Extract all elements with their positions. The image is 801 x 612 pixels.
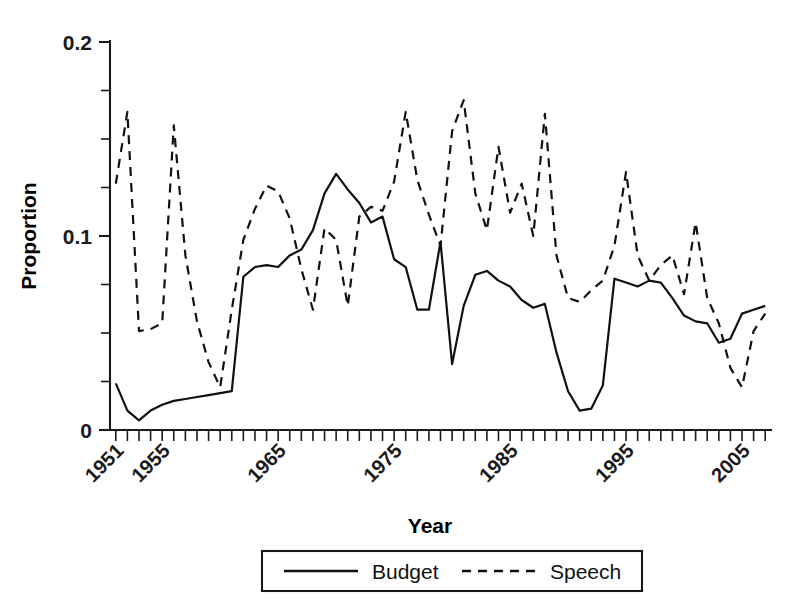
- x-tick-label: 2005: [707, 439, 754, 486]
- series-lines: [116, 100, 765, 420]
- y-axis-title: Proportion: [17, 182, 40, 289]
- y-tick-label: 0: [80, 419, 92, 442]
- y-axis: 00.10.2: [63, 31, 110, 442]
- y-tick-label: 0.1: [63, 225, 93, 248]
- x-tick-label: 1975: [359, 439, 406, 486]
- x-tick-label: 1955: [127, 439, 174, 486]
- x-axis-title: Year: [408, 514, 452, 537]
- legend-label-budget: Budget: [372, 560, 439, 583]
- x-tick-label: 1995: [591, 439, 638, 486]
- line-chart: 00.10.2 1951195519651975198519952005 Pro…: [0, 0, 801, 612]
- legend-label-speech: Speech: [550, 560, 621, 583]
- chart-figure: 00.10.2 1951195519651975198519952005 Pro…: [0, 0, 801, 612]
- y-tick-label: 0.2: [63, 31, 92, 54]
- x-tick-label: 1985: [475, 439, 522, 486]
- series-line-budget: [116, 174, 765, 420]
- x-axis: 1951195519651975198519952005: [81, 430, 771, 486]
- x-tick-label: 1951: [81, 439, 128, 486]
- series-line-speech: [116, 100, 765, 387]
- legend: BudgetSpeech: [262, 551, 642, 591]
- x-tick-label: 1965: [243, 439, 290, 486]
